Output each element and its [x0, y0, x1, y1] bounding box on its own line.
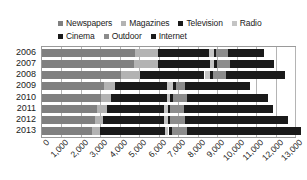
- chart-legend: NewspapersMagazinesTelevisionRadio Cinem…: [58, 17, 304, 43]
- bar-segment-magazines-2009[interactable]: [104, 82, 115, 90]
- y-tick-label-2012: 2012: [16, 115, 36, 124]
- bar-row-2007[interactable]: [42, 60, 295, 68]
- bar-segment-internet-2013[interactable]: [187, 127, 301, 135]
- legend-swatch-icon: [178, 21, 183, 26]
- bar-segment-internet-2008[interactable]: [226, 71, 284, 79]
- bar-segment-internet-2012[interactable]: [185, 116, 288, 124]
- bar-row-2010[interactable]: [42, 94, 295, 102]
- bar-segment-internet-2010[interactable]: [187, 94, 268, 102]
- legend-item-label: Cinema: [66, 31, 95, 42]
- bar-segment-newspapers-2011[interactable]: [42, 105, 97, 113]
- bar-segment-newspapers-2006[interactable]: [42, 49, 135, 57]
- plot-area: [41, 46, 296, 138]
- legend-item-label: Outdoor: [112, 31, 142, 42]
- bar-segment-outdoor-2011[interactable]: [170, 105, 184, 113]
- bar-segment-newspapers-2013[interactable]: [42, 127, 92, 135]
- bar-segment-television-2013[interactable]: [100, 127, 164, 135]
- bar-row-2011[interactable]: [42, 105, 295, 113]
- bar-segment-newspapers-2010[interactable]: [42, 94, 101, 102]
- bar-segment-outdoor-2006[interactable]: [216, 49, 228, 57]
- bar-segment-television-2011[interactable]: [107, 105, 163, 113]
- bar-segment-outdoor-2007[interactable]: [217, 60, 231, 68]
- bar-segment-outdoor-2009[interactable]: [176, 82, 185, 90]
- bar-segment-magazines-2012[interactable]: [95, 116, 104, 124]
- bar-segment-magazines-2010[interactable]: [101, 94, 111, 102]
- legend-row: NewspapersMagazinesTelevisionRadio: [58, 17, 304, 30]
- bar-row-2012[interactable]: [42, 116, 295, 124]
- y-tick-label-2007: 2007: [16, 59, 36, 68]
- legend-item-radio[interactable]: Radio: [232, 18, 262, 29]
- bar-segment-outdoor-2010[interactable]: [173, 94, 187, 102]
- legend-swatch-icon: [104, 34, 109, 39]
- bar-segment-magazines-2008[interactable]: [121, 71, 140, 79]
- y-tick-label-2006: 2006: [16, 48, 36, 57]
- stacked-bar-chart: NewspapersMagazinesTelevisionRadio Cinem…: [0, 0, 307, 180]
- bar-segment-television-2008[interactable]: [140, 71, 204, 79]
- y-tick-label-2011: 2011: [17, 104, 36, 113]
- bar-row-2013[interactable]: [42, 127, 295, 135]
- bar-row-2006[interactable]: [42, 49, 295, 57]
- bar-segment-magazines-2011[interactable]: [97, 105, 107, 113]
- legend-item-label: Television: [186, 18, 222, 29]
- bar-segment-internet-2011[interactable]: [184, 105, 273, 113]
- bar-segment-magazines-2013[interactable]: [92, 127, 101, 135]
- legend-item-label: Magazines: [129, 18, 169, 29]
- bar-segment-magazines-2006[interactable]: [135, 49, 157, 57]
- bar-segment-television-2006[interactable]: [158, 49, 210, 57]
- bar-segment-magazines-2007[interactable]: [134, 60, 157, 68]
- bar-segment-television-2010[interactable]: [111, 94, 166, 102]
- bar-segment-outdoor-2013[interactable]: [172, 127, 188, 135]
- legend-item-label: Newspapers: [66, 18, 112, 29]
- legend-item-television[interactable]: Television: [178, 18, 222, 29]
- legend-swatch-icon: [58, 34, 63, 39]
- bar-segment-outdoor-2012[interactable]: [170, 116, 185, 124]
- legend-item-magazines[interactable]: Magazines: [121, 18, 169, 29]
- bar-row-2008[interactable]: [42, 71, 295, 79]
- bar-segment-outdoor-2008[interactable]: [213, 71, 227, 79]
- y-tick-label-2013: 2013: [16, 126, 36, 135]
- bar-segment-internet-2009[interactable]: [185, 82, 250, 90]
- bar-segment-internet-2006[interactable]: [228, 49, 264, 57]
- y-tick-label-2008: 2008: [16, 70, 36, 79]
- bars-layer: [42, 47, 295, 137]
- bar-segment-television-2009[interactable]: [115, 82, 167, 90]
- legend-item-cinema[interactable]: Cinema: [58, 31, 95, 42]
- legend-item-internet[interactable]: Internet: [151, 31, 187, 42]
- y-axis-year-labels: 20062007200820092010201120122013: [0, 46, 38, 136]
- bar-segment-newspapers-2007[interactable]: [42, 60, 134, 68]
- bar-segment-radio-2009[interactable]: [167, 82, 174, 90]
- bar-segment-television-2012[interactable]: [103, 116, 163, 124]
- legend-swatch-icon: [121, 21, 126, 26]
- gridline: [295, 47, 296, 137]
- bar-row-2009[interactable]: [42, 82, 295, 90]
- bar-segment-television-2007[interactable]: [158, 60, 211, 68]
- bar-segment-internet-2007[interactable]: [230, 60, 274, 68]
- legend-row: CinemaOutdoorInternet: [58, 30, 304, 43]
- bar-segment-newspapers-2009[interactable]: [42, 82, 104, 90]
- legend-item-outdoor[interactable]: Outdoor: [104, 31, 142, 42]
- legend-item-newspapers[interactable]: Newspapers: [58, 18, 112, 29]
- x-axis-value-labels: 01,0002,0003,0004,0005,0006,0007,0008,00…: [41, 138, 294, 180]
- bar-segment-newspapers-2012[interactable]: [42, 116, 95, 124]
- legend-item-label: Internet: [159, 31, 187, 42]
- legend-swatch-icon: [151, 34, 156, 39]
- legend-swatch-icon: [58, 21, 63, 26]
- y-tick-label-2010: 2010: [16, 93, 36, 102]
- legend-item-label: Radio: [240, 18, 262, 29]
- y-tick-label-2009: 2009: [16, 81, 36, 90]
- bar-segment-newspapers-2008[interactable]: [42, 71, 121, 79]
- legend-swatch-icon: [232, 21, 237, 26]
